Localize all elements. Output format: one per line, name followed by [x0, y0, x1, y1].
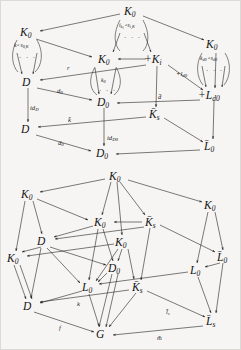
edge-b-right-to-L0right: [197, 212, 208, 263]
edge-b-Kbarslo-to-G: [109, 293, 136, 327]
edge-label-d-bar: d̄: [158, 93, 162, 100]
edge-label-id-D0: idD0: [107, 134, 119, 142]
edge-b-top-to-Kbars-up: [120, 182, 145, 215]
edge-label-r: r: [67, 64, 70, 71]
edge-sumKi-to-Kbars: [156, 66, 157, 107]
node-b-K0-mid: K0: [93, 216, 106, 230]
edge-b-top-to-right: [128, 180, 202, 202]
loop-dots-left-K0: · · ·: [19, 54, 37, 62]
lower-edges: [14, 179, 223, 335]
loop-label-left-K0: k∘s0,K: [14, 42, 29, 50]
node-b-K0-top: K0: [108, 170, 121, 184]
edge-b-Dup-to-D0: [50, 247, 106, 265]
edge-b-Lbar0-to-Lbars: [216, 263, 223, 313]
loop-label-k0: k0: [101, 77, 106, 84]
loop-label-right-K0: kd0∘sd0: [200, 55, 218, 62]
edge-Kbars-to-Lbar0: [164, 118, 203, 142]
loop-dots-mid-K0: · · ·: [124, 34, 142, 42]
node-b-L-bar-0: L̄0: [216, 251, 227, 265]
node-D-lower: D: [20, 123, 30, 135]
node-D0-lower: D0: [95, 147, 108, 161]
node-b-K-bar-s-lower: K̄s: [131, 281, 143, 295]
node-K0-top: K0: [123, 5, 136, 19]
edge-b-K0in-to-down: [128, 249, 134, 279]
node-b-K0-farleft: K0: [6, 252, 19, 266]
edge-b-D0-to-G: [99, 274, 112, 327]
upper-loop-labels: k∘s0,K · · · iki∘si,K · · · kd0∘sd0 · · …: [14, 22, 224, 95]
edge-Lbar0-to-D0-lower: [116, 150, 200, 154]
edge-label-b-mbar: m̄: [157, 334, 162, 341]
edge-b-Dup-to-L0left: [47, 248, 80, 283]
edge-label-plus-l-d0: +ld0: [176, 70, 188, 78]
edge-b-midK0-to-L0left: [89, 229, 98, 280]
edge-sumLd0-to-D0-upper: [117, 100, 200, 103]
edge-b-midK0-to-Dup: [54, 226, 93, 237]
edge-D-to-D0-upper: [37, 88, 92, 100]
node-b-D-upper: D: [36, 235, 46, 247]
edge-b-top-to-midK0: [102, 182, 111, 215]
edge-b-left-to-Dup: [33, 201, 42, 234]
edge-left-to-mid: [36, 39, 92, 57]
node-sum-Ki: +Ki: [144, 53, 162, 67]
edge-b-D0-to-L0left: [98, 273, 107, 282]
node-b-L0-right: L0: [189, 264, 200, 278]
upper-loops: [13, 20, 230, 95]
edge-b-K0farleft-to-Dlo-2: [20, 265, 32, 299]
edge-b-top-to-K0in: [117, 182, 122, 235]
figure-canvas: k∘s0,K · · · iki∘si,K · · · kd0∘sd0 · · …: [0, 0, 241, 350]
edge-b-left-to-midK0: [37, 199, 88, 220]
edge-b-Dlo-to-G-f: [34, 312, 94, 332]
edge-label-b-lbar-s: l̄s: [166, 308, 170, 316]
edge-sumLd0-to-Lbar0: [213, 101, 214, 139]
lower-nodes: K0 K0 K0 K0 K̄s D K0 L̄0 K0 D0 L0 L0 K̄s…: [6, 170, 227, 340]
edge-b-Kbarsup-to-Lbar0: [160, 225, 215, 252]
edge-b-Dup-to-K0farleft: [22, 247, 41, 252]
node-D-upper: D: [21, 76, 31, 88]
node-b-K-bar-s-upper: K̄s: [144, 216, 156, 230]
edge-label-b-k: k: [77, 300, 81, 307]
node-b-L0-left: L0: [81, 281, 92, 295]
edge-top-to-left: [40, 14, 120, 31]
loop-k0: [91, 67, 97, 95]
node-L-bar-0: L̄0: [203, 140, 214, 154]
loop-mid-K0-b: [143, 20, 148, 51]
edge-label-b-f: f: [59, 324, 62, 331]
edge-b-Kbarsup-to-Kbarslo: [141, 228, 150, 280]
edge-b-L0left-to-G: [89, 294, 99, 326]
node-K0-left: K0: [19, 26, 32, 40]
edge-b-K0in-to-D0: [118, 249, 122, 261]
node-b-K0-inner: K0: [114, 236, 127, 250]
edge-b-K0farleft-to-Dlo: [14, 265, 26, 299]
edge-sumKi-to-D-r: [40, 65, 146, 80]
edge-b-left-to-K0farleft: [16, 201, 25, 251]
edge-topK0-to-sumKi-2: [113, 33, 120, 52]
loop-dots-k0: · · ·: [99, 87, 117, 95]
node-b-K0-right: K0: [203, 199, 216, 213]
node-K0-right: K0: [205, 38, 218, 52]
upper-nodes: K0 K0 K0 K0 +Ki D +Ld0 D0 K̄s D L̄0 D0: [19, 5, 220, 161]
loop-dots-right-K0: · · ·: [206, 67, 224, 75]
node-b-G: G: [96, 328, 105, 340]
edge-label-d0-upper: d0: [57, 87, 63, 95]
edge-b-Lbar0-to-L0right: [205, 263, 220, 267]
edge-b-right-to-Lbar0: [215, 212, 223, 250]
edge-b-L0right-to-Lbars: [198, 277, 211, 313]
edge-Kbars-to-D-kbar: [38, 117, 146, 127]
node-b-D-lower: D: [22, 300, 32, 312]
edge-label-id-D: idD: [30, 104, 39, 112]
loop-label-mid-K0: iki∘si,K: [119, 22, 135, 30]
node-K-bar-s-upper: K̄s: [148, 108, 160, 122]
node-b-D0: D0: [107, 262, 120, 276]
edge-label-k-bar: k̄: [68, 116, 72, 123]
edge-label-d0-lower: d0: [58, 139, 64, 147]
upper-cube-diagram: k∘s0,K · · · iki∘si,K · · · kd0∘sd0 · · …: [0, 0, 241, 350]
node-D0-upper: D0: [96, 96, 109, 110]
node-b-K0-left: K0: [20, 188, 33, 202]
node-sum-Ld0: +Ld0: [198, 89, 220, 103]
edge-b-top-to-left: [40, 179, 105, 192]
node-K0-mid: K0: [97, 53, 110, 67]
edge-b-Kbarslo-to-Lbars: [147, 291, 205, 317]
node-b-L-bar-s: L̄s: [205, 315, 215, 329]
edge-top-to-right: [143, 16, 204, 40]
upper-edges: [17, 14, 225, 154]
